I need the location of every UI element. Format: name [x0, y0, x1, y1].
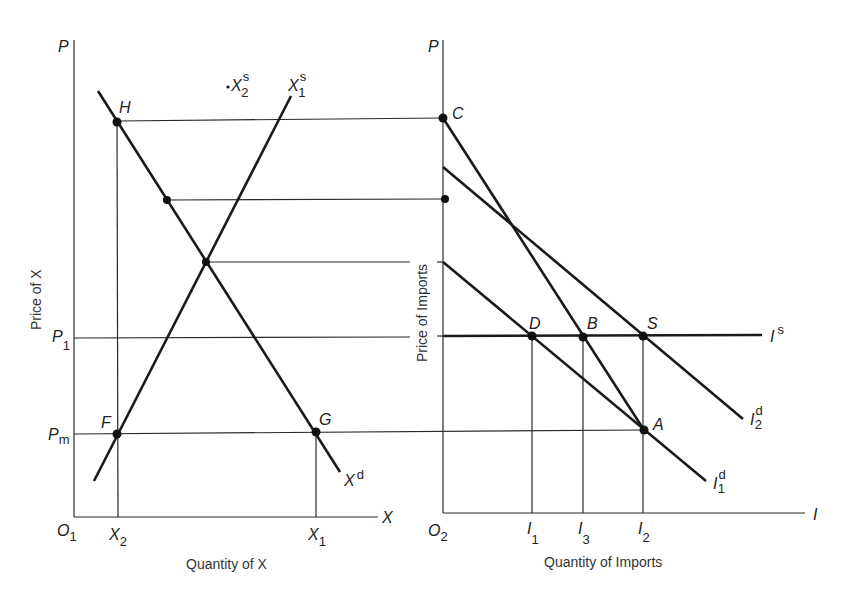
x2-drop-line [117, 122, 118, 517]
label-point-a: A [652, 416, 664, 433]
label-i3: I3 [578, 520, 590, 547]
point-f [113, 430, 122, 439]
point-a [640, 426, 649, 435]
guide-line-upper [167, 199, 443, 200]
left-x-axis-title: Quantity of X [186, 556, 268, 572]
supply-curve-x1s [94, 96, 291, 481]
point-g [312, 428, 321, 437]
label-point-c: C [452, 105, 464, 122]
x2s-marker [226, 85, 229, 88]
label-point-s: S [647, 315, 658, 332]
p1-line [74, 337, 410, 338]
point-upper [163, 196, 171, 204]
label-point-d: D [529, 315, 541, 332]
point-s [639, 332, 648, 341]
right-y-axis-title: Price of Imports [414, 264, 430, 362]
origin-o1: O1 [57, 522, 77, 544]
left-y-axis-title: Price of X [28, 269, 44, 330]
right-x-axis-title: Quantity of Imports [544, 554, 662, 570]
demand-curve-xd [98, 91, 340, 472]
point-h [113, 118, 122, 127]
label-x1: X1 [307, 526, 326, 549]
label-xd: Xd [343, 467, 364, 489]
left-panel: P X O1 P1 Pm X2 X1 H F G Xd Xs2 Xs1 Quan… [28, 38, 644, 572]
label-x2: X2 [108, 526, 127, 549]
right-x-axis-label: I [813, 506, 818, 523]
import-supply-curve-is [443, 335, 762, 336]
origin-o2: O2 [428, 522, 448, 544]
pm-line [74, 430, 644, 434]
label-i1: I1 [527, 520, 539, 547]
label-i2: I2 [638, 520, 650, 545]
label-is: Is [770, 322, 784, 345]
import-demand-curve-i1d [443, 262, 706, 481]
point-b [579, 333, 588, 342]
left-y-axis-label: P [58, 38, 69, 55]
label-x1s: Xs1 [287, 69, 307, 100]
label-i1d: Id1 [713, 467, 726, 496]
label-p1: P1 [52, 328, 70, 353]
label-point-h: H [119, 99, 131, 116]
label-x2s: Xs2 [230, 69, 250, 100]
import-demand-curve-i2d [443, 167, 743, 419]
label-point-f: F [101, 414, 112, 431]
label-pm: Pm [48, 426, 70, 447]
point-c [439, 114, 448, 123]
point-equilibrium [202, 258, 210, 266]
point-axis-upper [441, 195, 449, 203]
left-x-axis-label: X [381, 509, 394, 526]
import-demand-kinked-c-a [443, 118, 644, 430]
point-d [528, 332, 537, 341]
label-i2d: Id2 [750, 403, 763, 432]
right-y-axis-label: P [428, 38, 439, 55]
right-panel: P I O2 I1 I3 I2 C D B S A Is Id2 Id1 Qua… [414, 38, 818, 570]
label-point-g: G [319, 411, 331, 428]
label-point-b: B [587, 315, 598, 332]
trade-diagram: P X O1 P1 Pm X2 X1 H F G Xd Xs2 Xs1 Quan… [0, 0, 843, 599]
